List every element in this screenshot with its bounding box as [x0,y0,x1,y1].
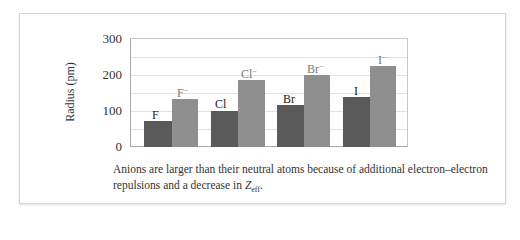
label-i: I [354,85,358,97]
figure-caption: Anions are larger than their neutral ato… [113,161,493,198]
gridline [131,93,407,94]
label-f-ion: F− [177,87,188,99]
label-cl-ion: Cl− [241,68,257,80]
bar-i [343,97,370,147]
label-i-ion: I− [378,54,387,66]
bar-br [277,105,304,147]
bar-f-ion [172,99,198,147]
y-axis-label: Radius (pm) [63,62,78,122]
label-br-ion: Br− [307,63,324,75]
y-tick-300: 300 [103,32,123,45]
bar-i-ion [370,66,396,147]
label-br: Br [283,93,295,105]
label-cl: Cl [215,98,226,110]
bar-cl [211,111,238,147]
bar-f [144,121,172,147]
bar-cl-ion [238,80,265,147]
y-tick-200: 200 [103,68,123,81]
label-f: F [152,109,159,121]
gridline [131,57,407,58]
y-tick-0: 0 [116,140,123,153]
y-tick-100: 100 [103,104,123,117]
bar-br-ion [304,75,330,147]
gridline [131,75,407,76]
